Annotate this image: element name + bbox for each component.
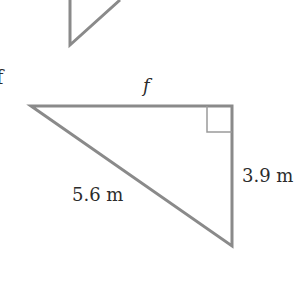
label-right-side: 3.9 m [242, 165, 293, 186]
figure-canvas: f f 5.6 m 3.9 m [0, 0, 303, 286]
label-hypotenuse: 5.6 m [72, 184, 123, 205]
right-angle-marker [207, 106, 232, 132]
edge-glyph: f [0, 65, 5, 89]
upper-triangle-fragment [70, 0, 120, 45]
right-triangle [31, 106, 232, 246]
label-top-side: f [141, 75, 153, 96]
